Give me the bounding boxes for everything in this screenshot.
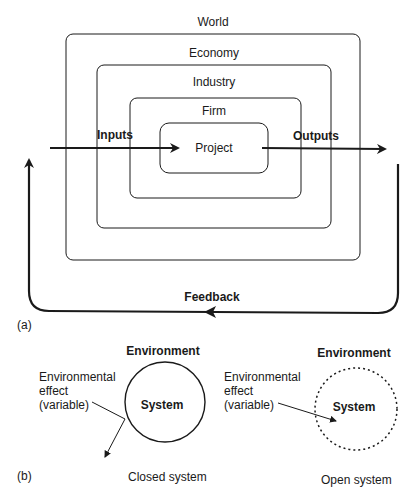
closed-reflect-arrow [105, 419, 125, 457]
industry-label: Industry [193, 75, 236, 89]
closed-environment-label: Environment [126, 344, 199, 358]
closed-effect-line [92, 402, 125, 419]
feedback-label: Feedback [184, 290, 239, 304]
closed-system-caption: Closed system [128, 470, 207, 484]
open-system-caption: Open system [321, 473, 392, 487]
open-effect-label-1: Environmental [224, 370, 301, 384]
open-environment-label: Environment [317, 346, 390, 360]
panel-a-label: (a) [17, 318, 32, 332]
economy-label: Economy [189, 46, 239, 60]
open-effect-label-2: effect [224, 384, 253, 398]
closed-effect-label-1: Environmental [39, 370, 116, 384]
panel-b-label: (b) [17, 469, 32, 483]
world-label: World [197, 15, 228, 29]
project-label: Project [195, 141, 232, 155]
firm-label: Firm [202, 104, 226, 118]
open-effect-label-3: (variable) [224, 398, 274, 412]
closed-effect-label-2: effect [39, 384, 68, 398]
closed-system-label: System [141, 398, 184, 412]
outputs-label: Outputs [293, 129, 339, 143]
open-system-label: System [333, 400, 376, 414]
closed-effect-label-3: (variable) [39, 398, 89, 412]
outputs-arrow [262, 148, 385, 149]
inputs-label: Inputs [97, 128, 133, 142]
open-effect-arrow [278, 403, 336, 421]
